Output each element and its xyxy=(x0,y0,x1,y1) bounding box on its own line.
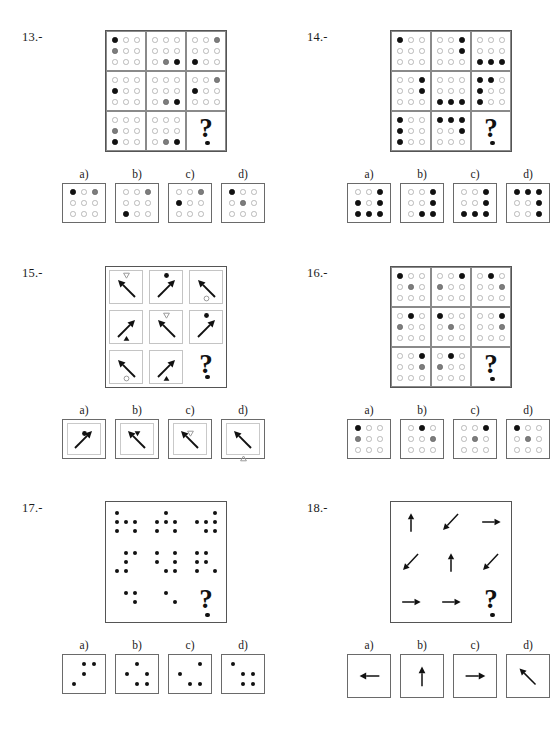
dot-empty-circle xyxy=(123,77,129,83)
option-c-16[interactable]: c) xyxy=(453,404,497,459)
option-d-17[interactable]: d) xyxy=(221,639,265,694)
dot-empty-circle xyxy=(448,335,454,341)
option-box[interactable] xyxy=(221,654,265,694)
dot-grid xyxy=(395,75,428,108)
option-box[interactable] xyxy=(62,183,106,223)
matrix-cell xyxy=(146,542,186,582)
option-a-15[interactable]: a) xyxy=(62,404,106,459)
option-b-13[interactable]: b) xyxy=(115,168,159,223)
dot-empty-circle xyxy=(408,128,414,134)
option-d-16[interactable]: d) xyxy=(506,404,550,459)
dot-empty-circle xyxy=(214,99,220,105)
option-c-13[interactable]: c) xyxy=(168,168,212,223)
option-letter: b) xyxy=(400,168,444,180)
question-mark-dot xyxy=(205,613,210,618)
option-box[interactable] xyxy=(347,183,391,223)
dot-none xyxy=(178,662,183,667)
option-a-14[interactable]: a) xyxy=(347,168,391,223)
dot-black-filled-circle xyxy=(164,569,169,574)
dot-empty-circle xyxy=(397,313,403,319)
matrix-cell xyxy=(106,542,146,582)
dot-grid xyxy=(150,35,183,68)
dot-black-filled-circle xyxy=(82,672,87,677)
dot-black-filled-circle xyxy=(477,99,483,105)
option-c-15[interactable]: c) xyxy=(168,404,212,459)
option-box[interactable] xyxy=(115,183,159,223)
option-box[interactable] xyxy=(400,419,444,459)
big-arrow-cell xyxy=(391,542,431,582)
dot-empty-circle xyxy=(366,425,372,431)
option-box[interactable] xyxy=(221,419,265,459)
dot-none xyxy=(124,600,129,605)
dot-empty-circle xyxy=(437,37,443,43)
option-a-18[interactable]: a) xyxy=(347,639,391,698)
option-b-15[interactable]: b) xyxy=(115,404,159,459)
dot-empty-circle xyxy=(419,447,425,453)
dot-empty-circle xyxy=(251,200,257,206)
option-box[interactable] xyxy=(115,419,159,459)
option-b-16[interactable]: b) xyxy=(400,404,444,459)
option-d-18[interactable]: d) xyxy=(506,639,550,698)
dot-empty-circle xyxy=(134,99,140,105)
dot-gray-filled-circle xyxy=(145,189,151,195)
dot-empty-circle xyxy=(472,189,478,195)
dot-empty-circle xyxy=(430,447,436,453)
option-box[interactable] xyxy=(115,654,159,694)
option-c-14[interactable]: c) xyxy=(453,168,497,223)
dot-black-filled-circle xyxy=(173,569,178,574)
option-box[interactable] xyxy=(400,654,444,698)
option-box[interactable] xyxy=(400,183,444,223)
option-a-17[interactable]: a) xyxy=(62,639,106,694)
option-box[interactable] xyxy=(453,183,497,223)
dot-none xyxy=(155,569,160,574)
option-b-18[interactable]: b) xyxy=(400,639,444,698)
option-a-13[interactable]: a) xyxy=(62,168,106,223)
option-d-15[interactable]: d) xyxy=(221,404,265,459)
option-box[interactable] xyxy=(506,183,550,223)
dot-empty-circle xyxy=(214,88,220,94)
dot-none xyxy=(124,529,129,534)
option-box[interactable] xyxy=(453,654,497,698)
option-box[interactable] xyxy=(62,654,106,694)
dot-empty-circle xyxy=(377,425,383,431)
option-box[interactable] xyxy=(506,654,550,698)
dot-empty-circle xyxy=(174,48,180,54)
puzzle-18-matrix: ? xyxy=(390,501,512,623)
option-letter: c) xyxy=(168,404,212,416)
puzzle-18-label: 18.- xyxy=(307,501,328,516)
option-box[interactable] xyxy=(168,654,212,694)
dot-empty-circle xyxy=(123,189,129,195)
dot-grid xyxy=(122,659,152,689)
option-b-14[interactable]: b) xyxy=(400,168,444,223)
dot-empty-circle xyxy=(419,335,425,341)
option-box[interactable] xyxy=(453,419,497,459)
option-c-17[interactable]: c) xyxy=(168,639,212,694)
option-b-17[interactable]: b) xyxy=(115,639,159,694)
question-mark-glyph: ? xyxy=(199,115,213,142)
dot-grid xyxy=(110,35,143,68)
dot-empty-circle xyxy=(152,128,158,134)
dot-empty-circle xyxy=(397,284,403,290)
dot-empty-circle xyxy=(477,324,483,330)
dot-empty-circle xyxy=(408,99,414,105)
dot-empty-circle xyxy=(419,59,425,65)
option-box[interactable] xyxy=(168,183,212,223)
dot-black-filled-circle xyxy=(483,200,489,206)
dot-empty-circle xyxy=(123,88,129,94)
option-box[interactable] xyxy=(347,419,391,459)
puzzle-13-label: 13.- xyxy=(22,30,43,45)
option-d-14[interactable]: d) xyxy=(506,168,550,223)
option-a-16[interactable]: a) xyxy=(347,404,391,459)
option-box[interactable] xyxy=(506,419,550,459)
option-box[interactable] xyxy=(62,419,106,459)
dot-black-filled-circle xyxy=(178,672,183,677)
matrix-cell xyxy=(186,31,226,71)
option-d-13[interactable]: d) xyxy=(221,168,265,223)
option-box[interactable] xyxy=(347,654,391,698)
option-box[interactable] xyxy=(168,419,212,459)
option-c-18[interactable]: c) xyxy=(453,639,497,698)
arrow-matrix-cell xyxy=(109,310,143,344)
option-box[interactable] xyxy=(221,183,265,223)
dot-empty-circle xyxy=(437,353,443,359)
dot-grid xyxy=(353,423,386,456)
